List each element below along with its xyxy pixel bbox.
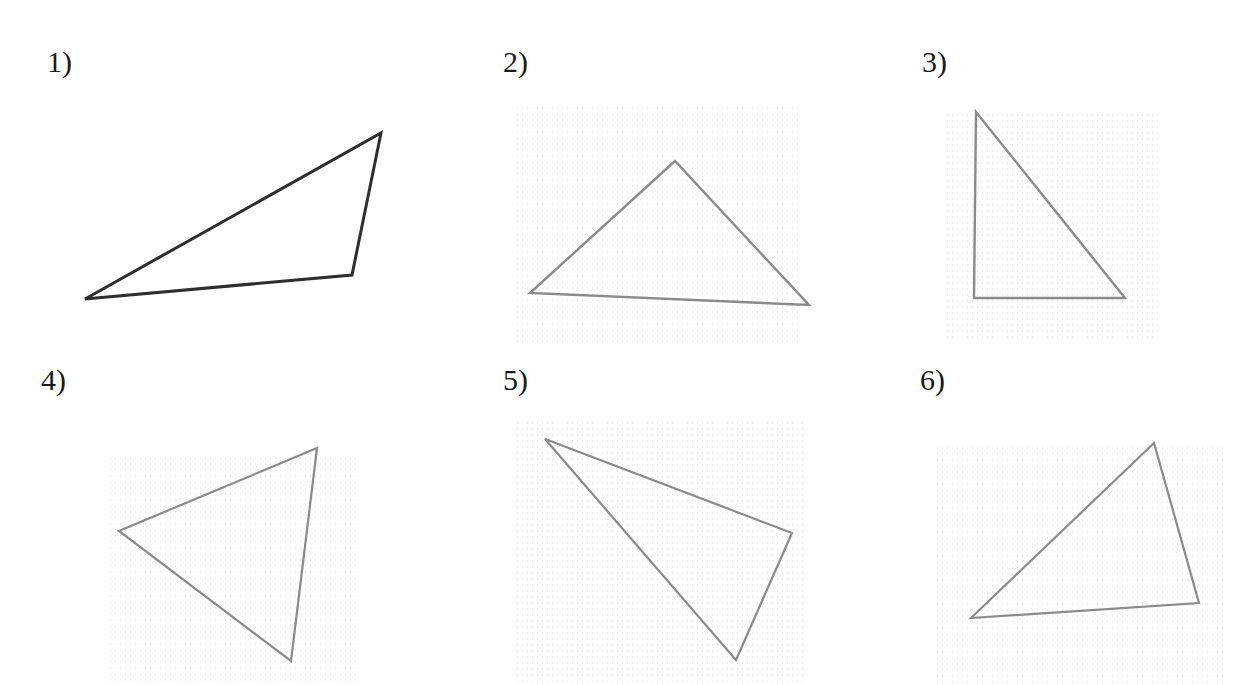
problem-label-1: 1) [47, 47, 72, 77]
triangle-5 [545, 439, 792, 660]
problem-label-3: 3) [922, 47, 947, 77]
triangle-6 [971, 443, 1199, 618]
triangle-1 [85, 133, 381, 299]
problem-label-6: 6) [920, 365, 945, 395]
problem-label-5: 5) [503, 365, 528, 395]
triangle-2 [530, 161, 809, 305]
triangle-3 [974, 112, 1125, 298]
problem-label-2: 2) [503, 47, 528, 77]
triangle-drawing-area [0, 0, 1242, 685]
problem-label-4: 4) [41, 365, 66, 395]
triangle-4 [119, 448, 317, 661]
